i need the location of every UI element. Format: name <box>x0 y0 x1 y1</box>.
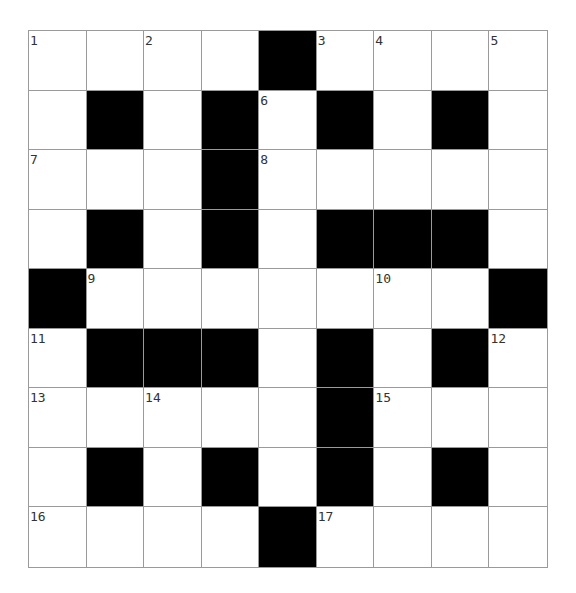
grid-cell[interactable] <box>489 91 547 151</box>
grid-cell[interactable]: 11 <box>29 329 87 389</box>
grid-cell[interactable]: 1 <box>29 31 87 91</box>
grid-cell[interactable]: 16 <box>29 507 87 567</box>
clue-number: 7 <box>30 153 38 166</box>
grid-cell[interactable] <box>87 31 145 91</box>
clue-number: 14 <box>145 391 161 404</box>
grid-cell[interactable] <box>144 448 202 508</box>
grid-cell[interactable] <box>144 269 202 329</box>
clue-number: 8 <box>260 153 268 166</box>
grid-cell[interactable] <box>489 210 547 270</box>
black-cell <box>317 210 375 270</box>
grid-cell[interactable] <box>432 388 490 448</box>
grid-cell[interactable]: 6 <box>259 91 317 151</box>
grid-cell[interactable] <box>202 507 260 567</box>
grid-cell[interactable]: 4 <box>374 31 432 91</box>
grid-cell[interactable]: 9 <box>87 269 145 329</box>
clue-number: 17 <box>318 510 334 523</box>
grid-cell[interactable] <box>29 448 87 508</box>
grid-cell[interactable] <box>489 507 547 567</box>
grid-cell[interactable] <box>144 210 202 270</box>
clue-number: 13 <box>30 391 46 404</box>
black-cell <box>202 448 260 508</box>
grid-cell[interactable] <box>432 507 490 567</box>
grid-cell[interactable]: 14 <box>144 388 202 448</box>
black-cell <box>259 31 317 91</box>
clue-number: 5 <box>490 34 498 47</box>
clue-number: 16 <box>30 510 46 523</box>
black-cell <box>202 150 260 210</box>
grid-cell[interactable] <box>489 448 547 508</box>
black-cell <box>317 91 375 151</box>
black-cell <box>432 91 490 151</box>
black-cell <box>87 91 145 151</box>
black-cell <box>87 329 145 389</box>
grid-cell[interactable]: 12 <box>489 329 547 389</box>
grid-cell[interactable]: 3 <box>317 31 375 91</box>
grid-cell[interactable]: 2 <box>144 31 202 91</box>
black-cell <box>87 448 145 508</box>
grid-cell[interactable]: 8 <box>259 150 317 210</box>
grid-cell[interactable] <box>432 31 490 91</box>
grid-cell[interactable] <box>259 329 317 389</box>
clue-number: 6 <box>260 94 268 107</box>
grid-cell[interactable] <box>144 507 202 567</box>
grid-cell[interactable] <box>29 210 87 270</box>
grid-cell[interactable]: 13 <box>29 388 87 448</box>
grid-cell[interactable] <box>87 150 145 210</box>
grid-cell[interactable]: 17 <box>317 507 375 567</box>
grid-cell[interactable] <box>432 269 490 329</box>
grid-cell[interactable] <box>87 507 145 567</box>
clue-number: 2 <box>145 34 153 47</box>
clue-number: 4 <box>375 34 383 47</box>
grid-cell[interactable] <box>29 91 87 151</box>
grid-cell[interactable] <box>489 388 547 448</box>
grid-cell[interactable] <box>432 150 490 210</box>
grid-cell[interactable] <box>259 388 317 448</box>
grid-cell[interactable] <box>374 150 432 210</box>
grid-cell[interactable] <box>374 507 432 567</box>
grid-cell[interactable] <box>374 91 432 151</box>
grid-cell[interactable] <box>87 388 145 448</box>
black-cell <box>87 210 145 270</box>
black-cell <box>432 448 490 508</box>
grid-cell[interactable]: 7 <box>29 150 87 210</box>
grid-cell[interactable] <box>374 329 432 389</box>
black-cell <box>317 448 375 508</box>
clue-number: 11 <box>30 332 46 345</box>
grid-cell[interactable] <box>259 269 317 329</box>
clue-number: 10 <box>375 272 391 285</box>
clue-number: 15 <box>375 391 391 404</box>
black-cell <box>202 329 260 389</box>
grid-cell[interactable]: 15 <box>374 388 432 448</box>
black-cell <box>489 269 547 329</box>
black-cell <box>432 210 490 270</box>
black-cell <box>202 210 260 270</box>
crossword-grid: 1234567891011121314151617 <box>28 30 548 568</box>
black-cell <box>432 329 490 389</box>
black-cell <box>259 507 317 567</box>
black-cell <box>317 388 375 448</box>
grid-cell[interactable] <box>489 150 547 210</box>
clue-number: 9 <box>88 272 96 285</box>
grid-cell[interactable]: 5 <box>489 31 547 91</box>
grid-cell[interactable] <box>144 91 202 151</box>
grid-cell[interactable] <box>259 210 317 270</box>
clue-number: 1 <box>30 34 38 47</box>
grid-cell[interactable] <box>259 448 317 508</box>
black-cell <box>317 329 375 389</box>
black-cell <box>144 329 202 389</box>
grid-cell[interactable] <box>374 448 432 508</box>
black-cell <box>374 210 432 270</box>
black-cell <box>202 91 260 151</box>
grid-cell[interactable] <box>144 150 202 210</box>
grid-cell[interactable] <box>202 269 260 329</box>
grid-cell[interactable]: 10 <box>374 269 432 329</box>
black-cell <box>29 269 87 329</box>
clue-number: 12 <box>490 332 506 345</box>
clue-number: 3 <box>318 34 326 47</box>
grid-cell[interactable] <box>317 269 375 329</box>
grid-cell[interactable] <box>202 31 260 91</box>
grid-cell[interactable] <box>202 388 260 448</box>
grid-cell[interactable] <box>317 150 375 210</box>
